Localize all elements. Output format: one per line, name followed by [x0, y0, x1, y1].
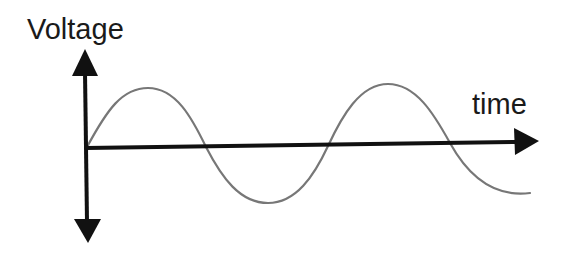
y-axis-down-arrow-icon [74, 219, 101, 243]
sine-wave-diagram [0, 0, 565, 255]
x-axis-right-arrow-icon [514, 128, 539, 155]
y-axis-up-arrow-icon [72, 49, 98, 76]
